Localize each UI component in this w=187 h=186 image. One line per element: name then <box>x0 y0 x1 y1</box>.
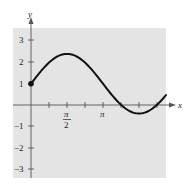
x-tick-label-pi-over-2-denominator: 2 <box>64 120 69 130</box>
x-tick-label-pi-over-2-numerator: π <box>64 109 69 119</box>
x-tick-label-pi: π <box>100 109 105 119</box>
plot-background <box>13 28 166 178</box>
y-axis-label: y <box>27 9 32 19</box>
x-axis-arrow-icon <box>169 103 176 108</box>
x-axis-label: x <box>177 100 182 110</box>
function-graph: x y 3 2 1 −1 −2 −3 π 2 π <box>0 0 187 186</box>
y-tick-label-neg2: −2 <box>14 143 24 153</box>
start-point-marker <box>28 81 34 87</box>
y-tick-label-neg1: −1 <box>14 121 24 131</box>
y-tick-label-3: 3 <box>19 35 24 45</box>
y-tick-label-2: 2 <box>19 57 24 67</box>
y-tick-label-1: 1 <box>19 79 24 89</box>
y-tick-label-neg3: −3 <box>14 164 24 174</box>
